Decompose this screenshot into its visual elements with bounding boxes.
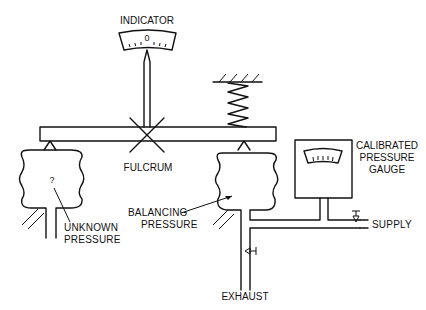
gauge-face [304, 149, 342, 164]
diagram-canvas: INDICATOR 0 FULCRUM ? UNKNOWN PRESSURE B… [0, 0, 426, 310]
lever-beam [40, 127, 276, 141]
supply-valve-icon [352, 211, 368, 228]
calibrated-pressure-gauge [295, 140, 352, 198]
gauge-label-line1: CALIBRATED [356, 140, 418, 151]
fulcrum-label: FULCRUM [124, 162, 173, 173]
balancing-pressure-label-line2: PRESSURE [141, 219, 198, 230]
indicator-zero-label: 0 [144, 33, 149, 43]
balancing-pressure-leader [181, 196, 232, 213]
exhaust-valve-icon [245, 247, 256, 255]
indicator-label: INDICATOR [120, 15, 174, 26]
unknown-mark: ? [49, 175, 54, 185]
unknown-pressure-label-line1: UNKNOWN [64, 222, 118, 233]
gauge-label-line2: PRESSURE [359, 152, 414, 163]
indicator-pointer [144, 50, 150, 127]
exhaust-label: EXHAUST [221, 291, 268, 302]
supply-label: SUPPLY [372, 219, 412, 230]
balancing-pressure-label-line1: BALANCING [128, 207, 188, 218]
spring-icon [213, 74, 262, 127]
gauge-label-line3: GAUGE [369, 164, 405, 175]
unknown-pressure-label-line2: PRESSURE [64, 234, 121, 245]
fulcrum-icon [130, 118, 164, 152]
